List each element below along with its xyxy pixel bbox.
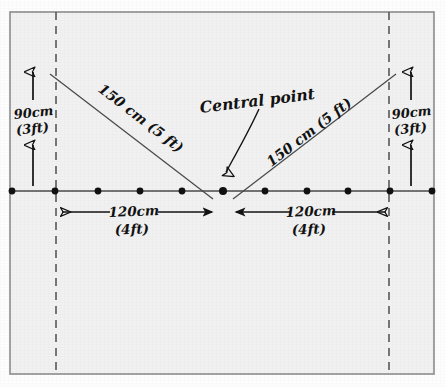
baseline-dot [52, 188, 59, 195]
right-horizontal-ft-label: (4ft) [291, 220, 326, 237]
left-horizontal-cm-label: 120cm [108, 202, 159, 220]
baseline-dot [304, 188, 311, 195]
baseline-dot [429, 188, 436, 195]
diagram-canvas: 90cm (3ft) 90cm (3ft) 120cm (4ft) 120cm … [0, 0, 445, 387]
right-horizontal-cm-label: 120cm [285, 202, 336, 220]
baseline-dot [262, 188, 269, 195]
baseline-dot [137, 188, 144, 195]
baseline-dot [345, 188, 352, 195]
baseline-dot [9, 188, 16, 195]
left-horizontal-ft-label: (4ft) [114, 220, 149, 237]
measurement-diagram: 90cm (3ft) 90cm (3ft) 120cm (4ft) 120cm … [0, 0, 445, 387]
central-point-dot [219, 187, 227, 195]
baseline-dot [387, 188, 394, 195]
baseline-dot [179, 188, 186, 195]
baseline-dot [95, 188, 102, 195]
